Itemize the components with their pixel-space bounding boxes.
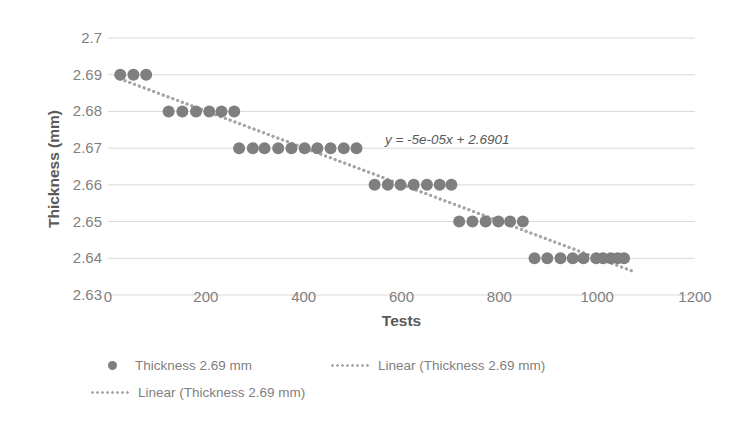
data-point (421, 179, 433, 191)
data-point (114, 69, 126, 81)
data-point (445, 179, 457, 191)
legend-entry-label: Thickness 2.69 mm (135, 358, 252, 373)
data-point (492, 216, 504, 228)
data-point (215, 105, 227, 117)
data-point (554, 252, 566, 264)
data-point (176, 105, 188, 117)
data-point (480, 216, 492, 228)
trendline-equation-label: y = -5e-05x + 2.6901 (385, 132, 510, 147)
legend-entry-label: Linear (Thickness 2.69 mm) (138, 385, 305, 400)
data-point (453, 216, 465, 228)
data-point (311, 142, 323, 154)
legend-entry-label: Linear (Thickness 2.69 mm) (378, 358, 545, 373)
x-axis-tick-label: 0 (104, 288, 112, 305)
data-point (272, 142, 284, 154)
data-point (127, 69, 139, 81)
data-point (259, 142, 271, 154)
data-point (190, 105, 202, 117)
x-axis-tick-label: 1000 (580, 288, 613, 305)
data-point (285, 142, 297, 154)
data-point (408, 179, 420, 191)
x-axis-tick-label: 1200 (678, 288, 711, 305)
x-axis-tick-label: 800 (487, 288, 512, 305)
x-axis-tick-label: 200 (193, 288, 218, 305)
data-point (529, 252, 541, 264)
data-point (203, 105, 215, 117)
x-axis-tick-label: 400 (291, 288, 316, 305)
data-point (567, 252, 579, 264)
scatter-chart: Thickness (mm) 2.632.642.652.662.672.682… (0, 0, 743, 438)
legend-entry[interactable]: Thickness 2.69 mm (108, 352, 252, 379)
data-point (228, 105, 240, 117)
data-point (247, 142, 259, 154)
data-point (618, 252, 630, 264)
data-points (114, 69, 630, 265)
data-point (338, 142, 350, 154)
data-point (466, 216, 478, 228)
legend-entry[interactable]: Linear (Thickness 2.69 mm) (330, 352, 545, 379)
dotted-line-icon (330, 364, 370, 367)
data-point (299, 142, 311, 154)
data-point (233, 142, 245, 154)
data-point (350, 142, 362, 154)
data-point (140, 69, 152, 81)
data-point (163, 105, 175, 117)
data-point (577, 252, 589, 264)
legend-row: Linear (Thickness 2.69 mm) (108, 379, 668, 406)
x-axis-tick-labels: 020040060080010001200 (0, 288, 743, 312)
dotted-line-icon (90, 391, 130, 394)
x-axis-tick-label: 600 (389, 288, 414, 305)
data-point (382, 179, 394, 191)
dot-marker-icon (108, 361, 117, 370)
data-point (369, 179, 381, 191)
x-axis-title: Tests (108, 312, 695, 330)
data-point (504, 216, 516, 228)
chart-legend: Thickness 2.69 mm Linear (Thickness 2.69… (108, 352, 668, 406)
data-point (434, 179, 446, 191)
data-point (541, 252, 553, 264)
legend-row: Thickness 2.69 mm Linear (Thickness 2.69… (108, 352, 668, 379)
legend-entry[interactable]: Linear (Thickness 2.69 mm) (90, 379, 305, 406)
data-point (325, 142, 337, 154)
data-point (395, 179, 407, 191)
data-point (517, 216, 529, 228)
